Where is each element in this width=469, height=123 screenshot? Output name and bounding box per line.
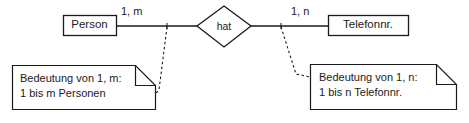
note-right-line-2: 1 bis n Telefonnr. [319, 86, 402, 99]
er-diagram-canvas: Person Telefonnr. hat 1, m 1, n Bedeutun… [0, 0, 469, 123]
note-left-line-1: Bedeutung von 1, m: [20, 72, 122, 85]
relationship-label-hat: hat [197, 20, 251, 32]
entity-label-person: Person [63, 18, 116, 32]
leader-line-note-right [281, 27, 310, 77]
cardinality-label-right: 1, n [291, 5, 309, 18]
note-right-line-1: Bedeutung von 1, n: [319, 71, 417, 84]
note-left-line-2: 1 bis m Personen [20, 87, 106, 100]
cardinality-label-left: 1, m [121, 5, 142, 18]
entity-label-telefonnr: Telefonnr. [328, 18, 408, 32]
